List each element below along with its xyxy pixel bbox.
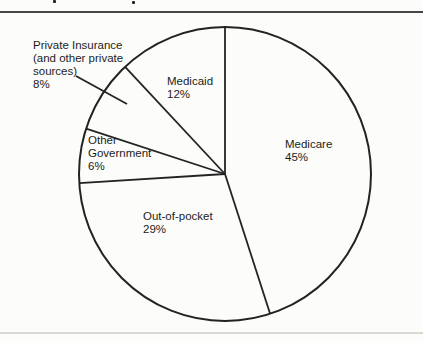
slice-boundary-line [79, 174, 225, 183]
slice-label-text: (and other private [33, 52, 123, 65]
slice-label-text: Out-of-pocket [143, 210, 213, 223]
slice-label-medicare: Medicare 45% [285, 138, 332, 164]
slice-label-medicaid: Medicaid 12% [167, 75, 213, 101]
scan-artifact-line [0, 332, 423, 334]
slice-label-text: sources) [33, 65, 123, 78]
slice-label-text: Government [88, 147, 151, 160]
slice-pct-text: 6% [88, 160, 151, 173]
slice-label-text: Other [88, 134, 151, 147]
slice-pct-text: 8% [33, 78, 123, 91]
slice-label-text: Medicaid [167, 75, 213, 88]
slice-label-out-of-pocket: Out-of-pocket 29% [143, 210, 213, 236]
slice-pct-text: 29% [143, 223, 213, 236]
figure-page: Medicare 45% Out-of-pocket 29% Other Gov… [0, 0, 423, 341]
slice-label-text: Private Insurance [33, 39, 123, 52]
slice-label-text: Medicare [285, 138, 332, 151]
slice-pct-text: 45% [285, 151, 332, 164]
slice-label-private-insurance: Private Insurance (and other private sou… [33, 39, 123, 91]
slice-pct-text: 12% [167, 88, 213, 101]
slice-boundary-line [225, 174, 270, 314]
slice-label-other-government: Other Government 6% [88, 134, 151, 173]
